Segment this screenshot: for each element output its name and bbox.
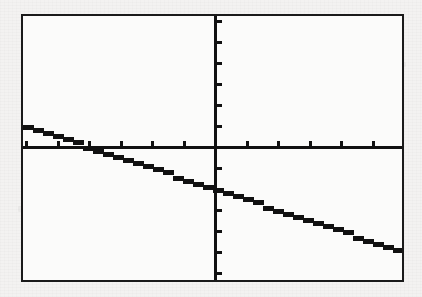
series-segment [163,170,174,175]
data-series-group [23,125,402,253]
series-segment [233,194,244,199]
series-segment [103,152,114,157]
series-segment [63,137,74,142]
screenshot-root [0,0,422,297]
series-segment [253,200,264,205]
series-segment [33,128,44,133]
y-axis-tick [217,251,222,254]
x-axis-tick [151,141,154,146]
series-segment [43,131,54,136]
series-segment [273,209,284,214]
series-segment [73,140,84,145]
y-axis-tick [217,167,222,170]
series-segment [353,236,364,241]
series-segment [303,218,314,223]
plot-area [23,16,402,280]
y-axis-line [214,16,217,280]
x-axis-line [23,146,402,149]
series-segment [153,167,164,172]
series-segment [313,221,324,226]
calculator-screen-frame [21,14,404,282]
plot-svg [23,16,402,280]
series-segment [193,182,204,187]
series-segment [203,185,214,190]
series-segment [263,206,274,211]
series-segment [373,242,384,247]
y-axis-tick [217,272,222,275]
series-segment [283,212,294,217]
y-axis-tick [217,83,222,86]
x-axis-tick [120,141,123,146]
series-segment [143,164,154,169]
series-segment [23,125,34,130]
y-axis-tick [217,209,222,212]
x-axis-tick [277,141,280,146]
series-segment [183,179,194,184]
series-segment [213,188,224,193]
series-0 [23,125,402,253]
series-segment [223,191,234,196]
series-segment [383,245,394,250]
x-axis-tick [372,141,375,146]
x-axis-tick [340,141,343,146]
series-segment [133,161,144,166]
y-axis-tick [217,41,222,44]
x-axis-tick [88,141,91,146]
series-segment [113,155,124,160]
series-segment [93,149,104,154]
series-segment [293,215,304,220]
series-segment [393,248,402,253]
series-segment [123,158,134,163]
y-axis-tick [217,104,222,107]
series-segment [323,224,334,229]
x-axis-tick [25,141,28,146]
x-axis-tick [183,141,186,146]
y-axis-tick [217,125,222,128]
series-segment [333,227,344,232]
y-axis-tick [217,20,222,23]
y-axis-tick [217,230,222,233]
axes-group [23,16,402,280]
series-segment [243,197,254,202]
series-segment [343,230,354,235]
series-segment [173,176,184,181]
series-segment [83,146,94,151]
series-segment [53,134,64,139]
x-axis-tick [309,141,312,146]
x-axis-tick [246,141,249,146]
y-axis-tick [217,62,222,65]
series-segment [363,239,374,244]
x-axis-tick [57,141,60,146]
